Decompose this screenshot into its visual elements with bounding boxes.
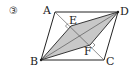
label-e: E [69,14,77,27]
vertex-d-dot [117,11,119,13]
label-b: B [30,55,38,68]
right-angle-mark-f [93,43,96,48]
geometry-figure: ③ A D B C E F [0,0,132,69]
label-f: F [84,45,92,58]
label-c: C [106,55,114,68]
label-d: D [120,5,129,18]
right-angle-mark-e [66,24,69,29]
label-a: A [42,4,52,17]
problem-number: ③ [9,5,18,16]
vertex-b-dot [40,59,42,61]
